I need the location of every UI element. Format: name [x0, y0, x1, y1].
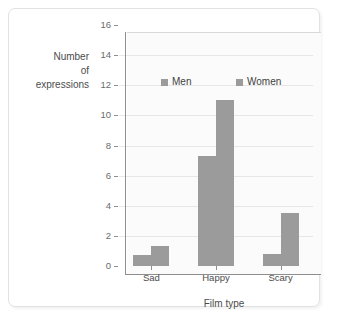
- y-tick-label: 4: [85, 201, 111, 211]
- y-tick-label: 6: [85, 171, 111, 181]
- bar-happy-women: [216, 100, 234, 266]
- y-tick-label-wrap: 12: [85, 80, 111, 90]
- x-axis-title: Film type: [127, 299, 321, 309]
- chart-frame: Number of expressions 0246810121416 SadH…: [8, 8, 320, 307]
- legend-swatch-women: [236, 79, 243, 86]
- legend-entry-men[interactable]: Men: [161, 76, 191, 88]
- y-tick-label: 0: [85, 261, 111, 271]
- y-tick-label-wrap: 14: [85, 50, 111, 60]
- bar-scary-women: [281, 213, 299, 266]
- y-tick-label: 14: [85, 50, 111, 60]
- y-tick-mark: [114, 85, 118, 86]
- x-tick-label-happy: Happy: [184, 273, 249, 283]
- y-tick-label-wrap: 16: [85, 20, 111, 30]
- x-tick-mark: [151, 266, 152, 270]
- y-axis-title-line-1: Number: [27, 50, 89, 64]
- y-tick-mark: [114, 266, 118, 267]
- y-axis-line: [125, 32, 126, 275]
- y-tick-label-wrap: 2: [85, 231, 111, 241]
- y-tick-label-wrap: 10: [85, 110, 111, 120]
- y-tick-mark: [114, 206, 118, 207]
- bar-sad-men: [133, 255, 151, 266]
- y-axis-title-line-3: expressions: [27, 78, 89, 92]
- y-tick-mark: [114, 55, 118, 56]
- y-tick-label: 8: [85, 141, 111, 151]
- y-tick-label-wrap: 6: [85, 171, 111, 181]
- y-axis-title-line-2: of: [27, 64, 89, 78]
- y-tick-label: 2: [85, 231, 111, 241]
- y-tick-label-wrap: 0: [85, 261, 111, 271]
- y-tick-label-wrap: 8: [85, 141, 111, 151]
- legend-label-women: Women: [247, 77, 281, 87]
- legend-swatch-men: [161, 79, 168, 86]
- gridline: [119, 55, 313, 56]
- bar-sad-women: [151, 246, 169, 266]
- y-axis-title: Number of expressions: [27, 50, 89, 93]
- y-tick-label: 16: [85, 20, 111, 30]
- x-tick-label-sad: Sad: [119, 273, 184, 283]
- y-tick-mark: [114, 115, 118, 116]
- y-tick-mark: [114, 236, 118, 237]
- x-tick-mark: [281, 266, 282, 270]
- bar-scary-men: [263, 254, 281, 266]
- legend-entry-women[interactable]: Women: [236, 76, 281, 88]
- y-tick-label: 12: [85, 80, 111, 90]
- y-tick-mark: [114, 25, 118, 26]
- y-tick-mark: [114, 146, 118, 147]
- x-tick-mark: [216, 266, 217, 270]
- y-tick-label: 10: [85, 110, 111, 120]
- y-tick-mark: [114, 176, 118, 177]
- legend-label-men: Men: [172, 77, 191, 87]
- y-tick-label-wrap: 4: [85, 201, 111, 211]
- plot-top-border: [127, 32, 321, 33]
- bar-happy-men: [198, 156, 216, 266]
- chart-legend: MenWomen: [119, 76, 313, 88]
- x-tick-label-scary: Scary: [248, 273, 313, 283]
